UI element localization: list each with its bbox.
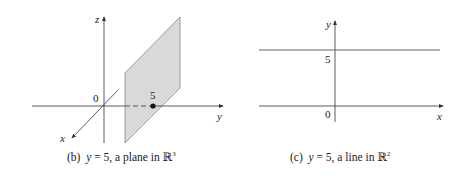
- origin-label-c: 0: [325, 109, 331, 120]
- origin-label-b: 0: [93, 93, 99, 104]
- y-axis-label-b: y: [217, 111, 222, 122]
- figure-c-2d-axes: [259, 21, 443, 122]
- x-axis-label-b: x: [60, 133, 65, 144]
- x-axis-label-c: x: [437, 111, 442, 122]
- tick-5-label: 5: [325, 54, 331, 65]
- caption-c: (c) y = 5, a line in ℝ2: [290, 150, 390, 164]
- figure-b-3d-axes: [32, 17, 223, 143]
- point-5-label: 5: [150, 90, 156, 101]
- caption-b: (b) y = 5, a plane in ℝ3: [67, 150, 176, 164]
- plane-y-equals-5: [125, 17, 180, 143]
- y-axis-label-c: y: [326, 19, 331, 30]
- z-axis-label: z: [95, 14, 99, 25]
- point-y5: [150, 103, 155, 108]
